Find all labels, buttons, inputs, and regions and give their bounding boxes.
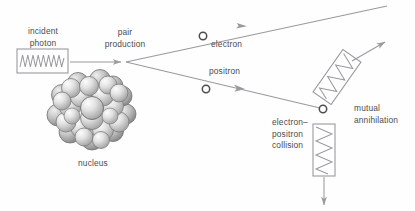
collision-marker xyxy=(319,105,326,112)
positron-marker xyxy=(202,85,209,92)
annihilation-photon-wave-box xyxy=(313,49,361,104)
diagram-canvas xyxy=(0,0,415,211)
nucleus-cluster xyxy=(47,70,136,151)
pair-production-diagram: incident photon pair production nucleus … xyxy=(0,0,415,211)
electron-marker xyxy=(199,32,206,39)
positron-ray xyxy=(126,62,322,109)
down-photon-wave-box xyxy=(313,124,335,176)
annihilation-arrow xyxy=(352,42,385,61)
incident-photon-wave-box xyxy=(17,49,68,73)
